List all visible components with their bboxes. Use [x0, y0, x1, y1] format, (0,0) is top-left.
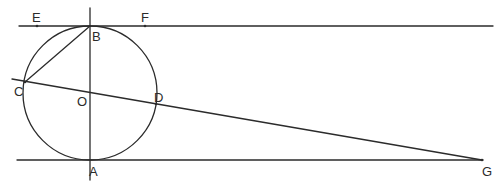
label-g: G — [482, 164, 492, 179]
point-f-marker — [144, 25, 147, 28]
label-b: B — [92, 29, 101, 44]
label-f: F — [141, 10, 149, 25]
label-e: E — [32, 10, 41, 25]
point-e-marker — [36, 25, 39, 28]
label-d: D — [154, 90, 163, 105]
label-a: A — [89, 164, 98, 179]
geometry-diagram: E F B C O D A G — [0, 0, 503, 190]
label-c: C — [14, 84, 23, 99]
point-g-marker — [481, 159, 484, 162]
point-c-marker — [24, 81, 27, 84]
secant-line-cg — [12, 79, 482, 160]
label-o: O — [77, 94, 87, 109]
